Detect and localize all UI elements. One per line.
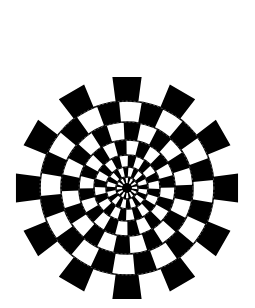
- spoke-segment: [213, 173, 238, 202]
- spoke-segment: [16, 173, 41, 202]
- spoke-segment: [147, 189, 160, 198]
- spoke-segment: [112, 274, 141, 299]
- spoke-segment: [124, 122, 141, 141]
- radial-checker-illusion: [0, 0, 255, 308]
- spoke-segment: [160, 85, 195, 119]
- spoke-segment: [196, 120, 230, 155]
- spoke-segment: [138, 184, 148, 189]
- spoke-segment: [126, 199, 131, 209]
- spoke-segment: [94, 179, 107, 188]
- spoke-segment: [112, 77, 141, 102]
- spoke-segment: [114, 140, 127, 156]
- spoke-segment: [163, 210, 186, 232]
- spoke-segment: [59, 257, 94, 291]
- spoke-segment: [118, 208, 127, 221]
- spoke-segment: [127, 220, 140, 236]
- spoke-segment: [68, 144, 91, 166]
- spoke-segment: [83, 224, 105, 247]
- spoke-segment: [165, 230, 194, 259]
- spoke-segment: [106, 187, 116, 192]
- spoke-segment: [60, 117, 89, 146]
- spoke-segment: [159, 175, 175, 188]
- spoke-segment: [24, 221, 58, 256]
- spoke-segment: [196, 221, 230, 256]
- spoke-segment: [61, 174, 80, 191]
- spoke-segment: [128, 155, 137, 168]
- spoke-segment: [59, 85, 94, 119]
- spoke-segment: [123, 167, 128, 177]
- spoke-segment: [56, 226, 85, 255]
- spoke-segment: [149, 129, 171, 152]
- spoke-segment: [79, 188, 95, 201]
- center-hub: [122, 183, 132, 193]
- spoke-segment: [174, 185, 193, 202]
- spoke-segment: [24, 120, 58, 155]
- spoke-segment: [169, 121, 198, 150]
- spoke-segment: [160, 257, 195, 291]
- illusion-figure: Radial checkered illusion: [0, 0, 255, 308]
- spoke-segment: [113, 235, 130, 254]
